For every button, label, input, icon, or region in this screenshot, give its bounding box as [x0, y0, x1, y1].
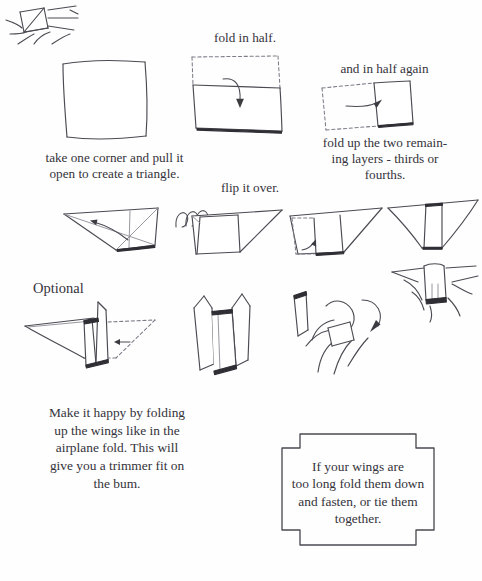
- figure-u-shape: [180, 286, 280, 384]
- figure-hand-hold-1: [290, 284, 396, 380]
- figure-triangle-flipped: [190, 204, 290, 260]
- figure-triangle-open: [60, 200, 170, 258]
- caption-take-one-corner: take one corner and pull it open to crea…: [12, 150, 217, 182]
- note-box: If your wings are too long fold them dow…: [278, 430, 438, 550]
- figure-fold-in-half: [186, 52, 294, 144]
- figure-hand-hold-2: [390, 262, 482, 324]
- figure-optional-perspective: [22, 288, 172, 378]
- figure-fold-in-half-again: [318, 78, 418, 140]
- caption-fold-up-two-layers: fold up the two remain- ing layers - thi…: [295, 135, 475, 183]
- instruction-sheet: fold in half. and in half again: [0, 0, 482, 581]
- figure-hand-hold-3: [0, 0, 92, 60]
- figure-triangle-fold-layers: [286, 202, 390, 260]
- caption-flip-it-over: flip it over.: [200, 180, 300, 196]
- figure-triangle-narrow: [386, 196, 482, 258]
- caption-fold-in-half: fold in half.: [180, 30, 310, 46]
- text-make-it-happy: Make it happy by folding up the wings li…: [22, 404, 212, 492]
- note-box-text: If your wings are too long fold them dow…: [278, 458, 438, 528]
- caption-and-in-half-again: and in half again: [312, 61, 457, 77]
- figure-square: [55, 52, 165, 152]
